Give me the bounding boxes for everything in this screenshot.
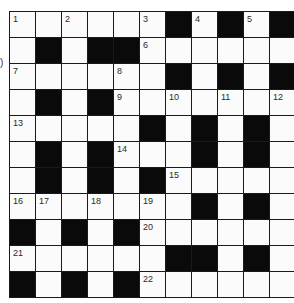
- crossword-cell[interactable]: [114, 246, 139, 271]
- crossword-cell[interactable]: [62, 90, 87, 115]
- crossword-cell[interactable]: [10, 90, 35, 115]
- crossword-cell[interactable]: 2: [62, 12, 87, 37]
- crossword-cell[interactable]: [192, 64, 217, 89]
- crossword-cell[interactable]: [88, 220, 113, 245]
- clue-number: 9: [117, 92, 122, 102]
- crossword-cell[interactable]: [244, 272, 269, 297]
- crossword-cell[interactable]: 12: [270, 90, 294, 115]
- crossword-cell[interactable]: [88, 12, 113, 37]
- crossword-cell[interactable]: [270, 272, 294, 297]
- clue-number: 7: [13, 66, 18, 76]
- crossword-cell[interactable]: 14: [114, 142, 139, 167]
- crossword-cell[interactable]: 17: [36, 194, 61, 219]
- crossword-cell[interactable]: [270, 116, 294, 141]
- crossword-cell[interactable]: 5: [244, 12, 269, 37]
- crossword-cell[interactable]: [244, 90, 269, 115]
- crossword-cell[interactable]: 16: [10, 194, 35, 219]
- crossword-cell[interactable]: [36, 272, 61, 297]
- crossword-cell[interactable]: [244, 220, 269, 245]
- clue-number: 14: [117, 144, 127, 154]
- crossword-cell[interactable]: [270, 194, 294, 219]
- crossword-cell[interactable]: [244, 168, 269, 193]
- crossword-cell[interactable]: [88, 246, 113, 271]
- crossword-cell[interactable]: [166, 116, 191, 141]
- crossword-cell[interactable]: [114, 12, 139, 37]
- crossword-cell[interactable]: 15: [166, 168, 191, 193]
- crossword-cell[interactable]: [10, 38, 35, 63]
- crossword-cell[interactable]: [270, 220, 294, 245]
- crossword-cell[interactable]: [62, 168, 87, 193]
- crossword-cell[interactable]: [244, 38, 269, 63]
- black-square: [166, 64, 191, 89]
- crossword-cell[interactable]: 19: [140, 194, 165, 219]
- crossword-cell[interactable]: [270, 142, 294, 167]
- crossword-cell[interactable]: [36, 116, 61, 141]
- crossword-cell[interactable]: [218, 246, 243, 271]
- crossword-cell[interactable]: 22: [140, 272, 165, 297]
- crossword-cell[interactable]: [270, 168, 294, 193]
- crossword-cell[interactable]: [166, 142, 191, 167]
- black-square: [192, 116, 217, 141]
- black-square: [218, 12, 243, 37]
- crossword-cell[interactable]: 6: [140, 38, 165, 63]
- crossword-cell[interactable]: [88, 64, 113, 89]
- crossword-cell[interactable]: [140, 246, 165, 271]
- black-square: [244, 194, 269, 219]
- crossword-cell[interactable]: [166, 272, 191, 297]
- crossword-cell[interactable]: [140, 142, 165, 167]
- crossword-cell[interactable]: 9: [114, 90, 139, 115]
- crossword-cell[interactable]: [270, 246, 294, 271]
- crossword-cell[interactable]: [140, 90, 165, 115]
- clue-number: 20: [143, 222, 153, 232]
- crossword-cell[interactable]: [114, 168, 139, 193]
- crossword-cell[interactable]: [62, 116, 87, 141]
- crossword-cell[interactable]: [62, 142, 87, 167]
- crossword-cell[interactable]: [218, 194, 243, 219]
- crossword-cell[interactable]: [166, 38, 191, 63]
- crossword-cell[interactable]: [36, 246, 61, 271]
- crossword-cell[interactable]: [218, 116, 243, 141]
- crossword-cell[interactable]: [192, 272, 217, 297]
- crossword-cell[interactable]: [218, 220, 243, 245]
- crossword-cell[interactable]: [218, 168, 243, 193]
- crossword-cell[interactable]: [62, 38, 87, 63]
- black-square: [270, 12, 294, 37]
- crossword-cell[interactable]: 3: [140, 12, 165, 37]
- crossword-cell[interactable]: [114, 116, 139, 141]
- crossword-cell[interactable]: [192, 38, 217, 63]
- crossword-cell[interactable]: [244, 64, 269, 89]
- crossword-cell[interactable]: [114, 194, 139, 219]
- crossword-cell[interactable]: [192, 168, 217, 193]
- crossword-cell[interactable]: 8: [114, 64, 139, 89]
- crossword-cell[interactable]: [62, 194, 87, 219]
- crossword-cell[interactable]: [218, 38, 243, 63]
- crossword-cell[interactable]: [36, 220, 61, 245]
- crossword-cell[interactable]: 13: [10, 116, 35, 141]
- crossword-cell[interactable]: [166, 194, 191, 219]
- crossword-cell[interactable]: 18: [88, 194, 113, 219]
- crossword-cell[interactable]: [88, 116, 113, 141]
- crossword-cell[interactable]: [62, 64, 87, 89]
- crossword-cell[interactable]: [218, 142, 243, 167]
- crossword-cell[interactable]: [192, 90, 217, 115]
- crossword-cell[interactable]: [62, 246, 87, 271]
- clue-number: 11: [221, 92, 230, 102]
- crossword-cell[interactable]: [218, 272, 243, 297]
- crossword-cell[interactable]: 10: [166, 90, 191, 115]
- crossword-cell[interactable]: [10, 168, 35, 193]
- crossword-cell[interactable]: [192, 220, 217, 245]
- crossword-cell[interactable]: 4: [192, 12, 217, 37]
- crossword-grid: 12345678910111213141516171819202122: [9, 11, 294, 298]
- crossword-cell[interactable]: [36, 64, 61, 89]
- crossword-cell[interactable]: [166, 220, 191, 245]
- crossword-cell[interactable]: [140, 64, 165, 89]
- crossword-cell[interactable]: [88, 272, 113, 297]
- crossword-cell[interactable]: [36, 12, 61, 37]
- crossword-cell[interactable]: 7: [10, 64, 35, 89]
- crossword-cell[interactable]: 11: [218, 90, 243, 115]
- crossword-cell[interactable]: [10, 142, 35, 167]
- crossword-cell[interactable]: 21: [10, 246, 35, 271]
- crossword-cell[interactable]: 1: [10, 12, 35, 37]
- crossword-cell[interactable]: [270, 38, 294, 63]
- crossword-cell[interactable]: 20: [140, 220, 165, 245]
